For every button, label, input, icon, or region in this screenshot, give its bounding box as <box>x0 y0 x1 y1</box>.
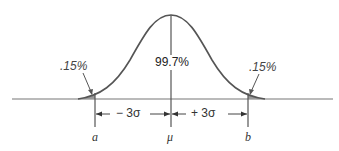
right-tail-percent: .15% <box>249 60 276 74</box>
plus-3-sigma-label: + 3σ <box>189 106 217 120</box>
axis-label-mu: μ <box>167 130 173 145</box>
arrowhead-center-right <box>172 112 178 117</box>
arrowhead-right <box>241 112 247 117</box>
center-percent: 99.7% <box>155 55 189 69</box>
minus-3-sigma-label: − 3σ <box>114 106 142 120</box>
arrowhead-left <box>96 112 102 117</box>
normal-curve-diagram <box>0 0 339 151</box>
arrowhead-center-left <box>164 112 170 117</box>
left-tail-percent: .15% <box>60 59 87 73</box>
axis-label-a: a <box>92 130 98 145</box>
axis-label-b: b <box>245 130 251 145</box>
